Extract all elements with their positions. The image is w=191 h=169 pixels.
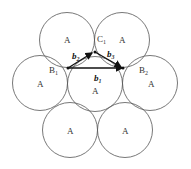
label-b2: B2 (139, 65, 148, 76)
label-vector-b2: b2 (72, 51, 80, 62)
point-b1-dot (67, 67, 70, 70)
label-vector-b1: b1 (94, 73, 102, 84)
atom-label: A (67, 126, 74, 136)
close-packed-layer-diagram: A A A A A A A B1 B2 C1 b1 b2 b3 (0, 0, 191, 169)
circle-bottom-right: A (98, 103, 153, 158)
circle-mid-right: A (123, 56, 178, 111)
label-c1: C1 (97, 34, 106, 45)
circle-top-left: A (40, 13, 95, 68)
circle-bottom-left: A (43, 103, 98, 158)
label-b1: B1 (49, 65, 58, 76)
circle-mid-left: A (13, 56, 68, 111)
point-c1-dot (94, 51, 97, 54)
label-vector-b3: b3 (107, 49, 115, 60)
atom-label: A (119, 35, 126, 45)
atom-label: A (64, 35, 71, 45)
atom-label: A (122, 126, 129, 136)
atom-label: A (148, 79, 155, 89)
point-b2-dot (122, 67, 125, 70)
atom-label: A (92, 86, 99, 96)
atom-label: A (37, 79, 44, 89)
